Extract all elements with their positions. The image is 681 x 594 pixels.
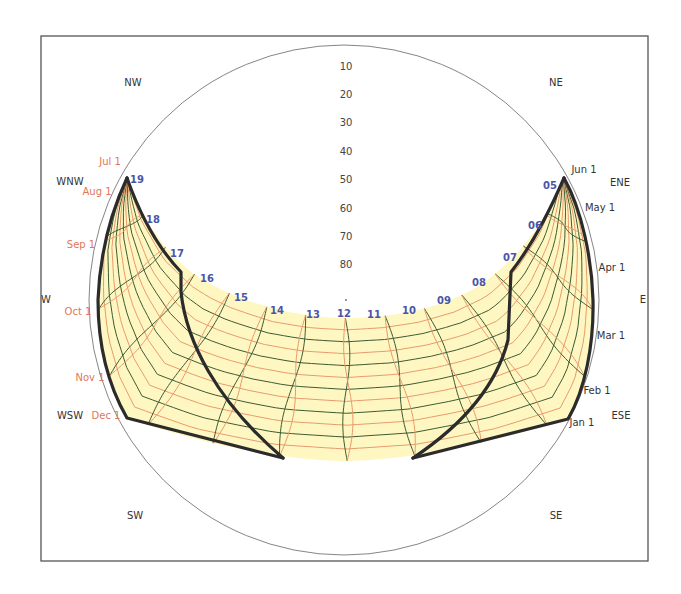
altitude-label: 10 bbox=[340, 61, 353, 72]
altitude-label: 20 bbox=[340, 89, 353, 100]
compass-label-nw: NW bbox=[124, 77, 141, 88]
month-label-left: Nov 1 bbox=[75, 372, 104, 383]
hour-label: 16 bbox=[200, 273, 214, 284]
compass-label-ne: NE bbox=[549, 77, 563, 88]
hour-label: 06 bbox=[528, 220, 542, 231]
hour-label: 09 bbox=[437, 295, 451, 306]
compass-label-w: W bbox=[41, 294, 51, 305]
hour-label: 14 bbox=[270, 305, 284, 316]
hour-label: 07 bbox=[503, 252, 517, 263]
compass-label-ene: ENE bbox=[610, 177, 630, 188]
hour-label: 15 bbox=[234, 292, 248, 303]
sun-path-diagram: NWNEWNWENEWEWSWESESWSE 1020304050607080 … bbox=[0, 0, 681, 594]
altitude-label: 30 bbox=[340, 117, 353, 128]
compass-label-sw: SW bbox=[127, 510, 143, 521]
hour-label: 13 bbox=[306, 309, 320, 320]
month-label-right: Apr 1 bbox=[599, 262, 626, 273]
hour-label: 17 bbox=[170, 248, 184, 259]
month-label-left: Oct 1 bbox=[65, 306, 92, 317]
compass-label-wnw: WNW bbox=[56, 176, 83, 187]
hour-label: 12 bbox=[337, 308, 351, 319]
altitude-label: 70 bbox=[340, 231, 353, 242]
zenith-dot bbox=[345, 299, 347, 301]
altitude-label: 40 bbox=[340, 146, 353, 157]
month-label-left: Aug 1 bbox=[82, 186, 111, 197]
month-label-right: Mar 1 bbox=[597, 330, 625, 341]
month-label-left: Dec 1 bbox=[92, 410, 121, 421]
hour-label: 08 bbox=[472, 277, 486, 288]
compass-label-se: SE bbox=[550, 510, 563, 521]
compass-label-ese: ESE bbox=[612, 410, 631, 421]
altitude-label: 50 bbox=[340, 174, 353, 185]
altitude-label: 60 bbox=[340, 203, 353, 214]
hour-label: 19 bbox=[130, 174, 144, 185]
compass-label-wsw: WSW bbox=[57, 410, 83, 421]
altitude-label: 80 bbox=[340, 259, 353, 270]
month-label-left: Sep 1 bbox=[67, 239, 95, 250]
hour-label: 18 bbox=[146, 214, 160, 225]
altitude-labels: 1020304050607080 bbox=[340, 61, 353, 301]
hour-label: 05 bbox=[543, 180, 557, 191]
month-label-right: May 1 bbox=[585, 202, 615, 213]
hour-label: 11 bbox=[367, 309, 381, 320]
month-label-right: Jun 1 bbox=[570, 164, 596, 175]
hour-label: 10 bbox=[402, 305, 416, 316]
month-label-right: Feb 1 bbox=[583, 385, 610, 396]
month-label-left: Jul 1 bbox=[98, 156, 121, 167]
compass-label-e: E bbox=[640, 294, 646, 305]
month-label-right: Jan 1 bbox=[569, 417, 595, 428]
